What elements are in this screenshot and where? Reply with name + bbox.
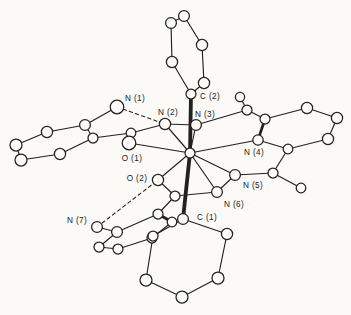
atom-label-N3: N (3): [195, 110, 215, 119]
atom-label-O2: O (2): [127, 174, 148, 183]
scanned-figure-page: N (1)N (2)C (2)N (3)N (4)O (1)O (2)N (5)…: [0, 0, 351, 315]
bond-M-C1: [183, 153, 190, 219]
atom-A2: [80, 120, 91, 131]
atom-label-N6: N (6): [224, 200, 244, 209]
atom-N7: [92, 222, 103, 233]
atom-Py6: [283, 144, 293, 154]
bond-N5-M: [190, 153, 235, 175]
atom-N2: [159, 118, 170, 129]
atom-C2: [186, 89, 196, 99]
atom-Ca2: [242, 105, 252, 115]
atom-C1: [178, 214, 189, 225]
atom-Q4: [176, 291, 188, 303]
bond-B1-B2: [117, 214, 158, 232]
atom-B4: [113, 244, 123, 254]
atom-A6: [54, 148, 65, 159]
atom-P5: [166, 56, 177, 67]
atom-P1: [166, 18, 177, 29]
atom-label-N2: N (2): [158, 108, 178, 117]
atom-Cb2: [268, 168, 278, 178]
atom-label-N1: N (1): [125, 94, 145, 103]
atom-Me1: [235, 92, 244, 101]
atom-B6: [167, 217, 177, 227]
bond-O1-M: [129, 143, 190, 153]
bond-N6-M: [190, 153, 217, 192]
atom-Py2: [260, 114, 270, 124]
atom-Q2: [221, 228, 232, 239]
atom-N3: [191, 120, 202, 131]
atom-layer: [10, 11, 343, 303]
bond-Q2-Q3: [218, 234, 227, 278]
atom-label-N5: N (5): [243, 181, 263, 190]
atom-P3: [196, 39, 207, 50]
atom-Py5: [322, 133, 333, 144]
atom-label-N4: N (4): [244, 148, 264, 157]
atom-A1: [88, 133, 98, 143]
atom-label-N7: N (7): [67, 216, 87, 225]
atom-A5: [15, 154, 27, 166]
atom-label-C2: C (2): [200, 92, 220, 101]
molecule-drawing: N (1)N (2)C (2)N (3)N (4)O (1)O (2)N (5)…: [0, 0, 351, 315]
atom-Q5: [140, 274, 152, 286]
atom-P2: [179, 11, 190, 22]
bond-Py2-Py3: [265, 108, 307, 119]
atom-P4: [198, 77, 209, 88]
atom-M: [185, 148, 195, 158]
atom-N6: [212, 187, 223, 198]
atom-B2: [112, 227, 123, 238]
atom-Py4: [331, 112, 342, 123]
atom-label-C1: C (1): [197, 213, 217, 222]
bond-N6-Cb1: [175, 192, 217, 196]
atom-O1: [122, 136, 136, 150]
atom-B3: [94, 242, 104, 252]
atom-Cb1: [170, 191, 180, 201]
label-layer: N (1)N (2)C (2)N (3)N (4)O (1)O (2)N (5)…: [67, 92, 264, 225]
atom-N1: [110, 100, 124, 114]
atom-B1: [153, 209, 163, 219]
atom-A4: [10, 139, 22, 151]
atom-O2: [152, 174, 163, 185]
bond-O2-M: [158, 153, 190, 180]
atom-A3: [41, 126, 52, 137]
bond-N7-O2-hydrogen-bond: [97, 180, 158, 227]
atom-Q6: [148, 231, 158, 241]
atom-Me2: [296, 183, 306, 193]
atom-N4: [253, 135, 263, 145]
atom-N5: [230, 170, 241, 181]
atom-label-O1: O (1): [122, 154, 143, 163]
atom-Q3: [212, 272, 224, 284]
atom-Py3: [301, 102, 312, 113]
